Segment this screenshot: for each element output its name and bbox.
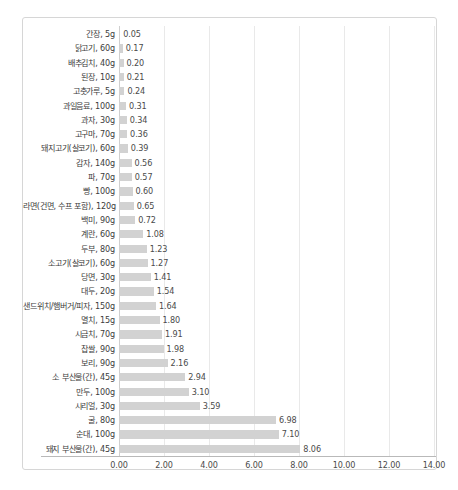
bar: [119, 359, 168, 367]
bar-value-label: 6.98: [279, 413, 297, 427]
x-tick-label: 10.00: [324, 460, 364, 470]
bar: [119, 130, 127, 138]
bar: [119, 144, 128, 152]
category-label: 감자, 140g: [23, 156, 115, 170]
bar: [119, 44, 123, 52]
bar: [119, 230, 143, 238]
bar-value-label: 1.08: [146, 227, 164, 241]
category-label: 돼지 부산물(간), 45g: [23, 442, 115, 456]
bar-row: 빵, 100g0.60: [23, 184, 438, 198]
bar-value-label: 2.16: [171, 356, 189, 370]
category-label: 두부, 80g: [23, 242, 115, 256]
bar: [119, 273, 151, 281]
bar-row: 백미, 90g0.72: [23, 213, 438, 227]
bar-row: 소고기(살코기), 60g1.27: [23, 256, 438, 270]
x-tick-label: 2.00: [144, 460, 184, 470]
bar-row: 굴, 80g6.98: [23, 413, 438, 427]
x-tick-label: 14.00: [414, 460, 454, 470]
bar: [119, 445, 300, 453]
bar-value-label: 7.10: [282, 427, 300, 441]
category-label: 보리, 90g: [23, 356, 115, 370]
category-label: 배추김치, 40g: [23, 56, 115, 70]
bar: [119, 345, 164, 353]
chart-frame: 간장, 5g0.05닭고기, 60g0.17배추김치, 40g0.20된장, 1…: [22, 17, 437, 470]
category-label: 고구마, 70g: [23, 127, 115, 141]
bar-value-label: 0.36: [130, 127, 148, 141]
bar-row: 간장, 5g0.05: [23, 27, 438, 41]
bar-value-label: 1.41: [154, 270, 172, 284]
bar-row: 과일음료, 100g0.31: [23, 99, 438, 113]
bar-value-label: 3.10: [192, 385, 210, 399]
bar-row: 돼지고기(살코기), 60g0.39: [23, 141, 438, 155]
bar: [119, 316, 160, 324]
category-label: 멸치, 15g: [23, 313, 115, 327]
bar-value-label: 3.59: [203, 399, 221, 413]
bar-row: 된장, 10g0.21: [23, 70, 438, 84]
bar-row: 멸치, 15g1.80: [23, 313, 438, 327]
category-label: 만두, 100g: [23, 385, 115, 399]
bar-value-label: 0.31: [129, 99, 147, 113]
bar-value-label: 1.54: [157, 284, 175, 298]
bar-value-label: 8.06: [303, 442, 321, 456]
bar: [119, 59, 124, 67]
bar-row: 고춧가루, 5g0.24: [23, 84, 438, 98]
x-tick-label: 4.00: [189, 460, 229, 470]
bar: [119, 202, 134, 210]
category-label: 백미, 90g: [23, 213, 115, 227]
category-label: 고춧가루, 5g: [23, 84, 115, 98]
bar: [119, 330, 162, 338]
category-label: 돼지고기(살코기), 60g: [23, 141, 115, 155]
bar-value-label: 1.27: [151, 256, 169, 270]
category-label: 소고기(살코기), 60g: [23, 256, 115, 270]
category-label: 간장, 5g: [23, 27, 115, 41]
bar-row: 순대, 100g7.10: [23, 427, 438, 441]
category-label: 계란, 60g: [23, 227, 115, 241]
bar-value-label: 0.24: [127, 84, 145, 98]
bar-value-label: 1.91: [165, 327, 183, 341]
category-label: 샌드위치/햄버거/피자, 150g: [23, 299, 115, 313]
bar-value-label: 1.23: [150, 242, 168, 256]
category-label: 라면(건면, 수프 포함), 120g: [23, 199, 115, 213]
category-label: 시리얼, 30g: [23, 399, 115, 413]
bar-row: 고구마, 70g0.36: [23, 127, 438, 141]
category-label: 소 부산물(간), 45g: [23, 370, 115, 384]
bar: [119, 373, 185, 381]
bar-value-label: 0.57: [135, 170, 153, 184]
bar-value-label: 0.39: [131, 141, 149, 155]
bar-value-label: 1.98: [167, 342, 185, 356]
bar-value-label: 0.60: [136, 184, 154, 198]
category-label: 순대, 100g: [23, 427, 115, 441]
bar: [119, 388, 189, 396]
bar: [119, 30, 120, 38]
x-tick-label: 6.00: [234, 460, 274, 470]
bar-value-label: 1.64: [159, 299, 177, 313]
bar-row: 시금치, 70g1.91: [23, 327, 438, 341]
bar: [119, 402, 200, 410]
bar-value-label: 2.94: [188, 370, 206, 384]
bar-value-label: 0.21: [127, 70, 145, 84]
category-label: 과일음료, 100g: [23, 99, 115, 113]
bar-row: 만두, 100g3.10: [23, 385, 438, 399]
x-tick-label: 8.00: [279, 460, 319, 470]
category-label: 찹쌀, 90g: [23, 342, 115, 356]
bar-row: 라면(건면, 수프 포함), 120g0.65: [23, 199, 438, 213]
bar-row: 돼지 부산물(간), 45g8.06: [23, 442, 438, 456]
bar-row: 찹쌀, 90g1.98: [23, 342, 438, 356]
bar: [119, 416, 276, 424]
category-label: 파, 70g: [23, 170, 115, 184]
bar: [119, 259, 148, 267]
bar: [119, 187, 133, 195]
bar-row: 두부, 80g1.23: [23, 242, 438, 256]
bar: [119, 173, 132, 181]
bar: [119, 287, 154, 295]
bar-value-label: 0.56: [135, 156, 153, 170]
bar: [119, 159, 132, 167]
x-tick-label: 0.00: [99, 460, 139, 470]
bar-row: 파, 70g0.57: [23, 170, 438, 184]
bar-row: 과자, 30g0.34: [23, 113, 438, 127]
x-axis-baseline: [41, 456, 436, 457]
bar-value-label: 0.72: [138, 213, 156, 227]
bar: [119, 245, 147, 253]
bar: [119, 116, 127, 124]
bar-row: 소 부산물(간), 45g2.94: [23, 370, 438, 384]
